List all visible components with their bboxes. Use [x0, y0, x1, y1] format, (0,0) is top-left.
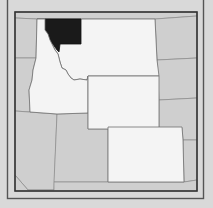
state-wyoming — [88, 76, 159, 129]
state-north-dakota — [155, 16, 197, 60]
locator-map: Northern Rocky Mountain states locator m… — [0, 0, 213, 208]
state-south-dakota — [157, 58, 197, 100]
state-nevada — [15, 111, 57, 190]
state-washington — [15, 18, 37, 58]
state-kansas — [183, 140, 197, 182]
state-colorado — [108, 127, 184, 182]
